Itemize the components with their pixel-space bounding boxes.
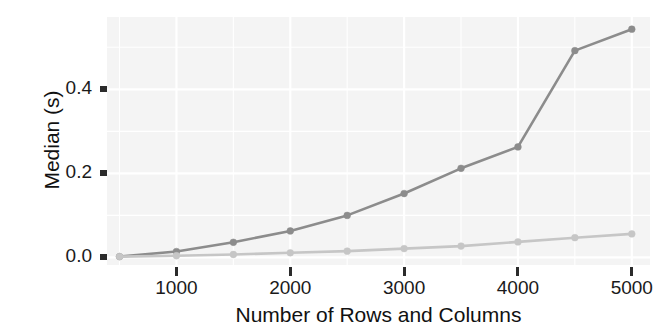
x-axis-tick-mark [175, 267, 178, 276]
plot-panel [107, 17, 650, 265]
data-point-lower-series-1000 [173, 252, 180, 259]
series-line-upper-series [120, 29, 632, 256]
data-point-lower-series-4000 [515, 238, 522, 245]
data-point-lower-series-1500 [230, 251, 237, 258]
x-axis-tick-mark [630, 267, 633, 276]
data-point-lower-series-2500 [344, 248, 351, 255]
x-axis-tick-label: 2000 [245, 278, 335, 297]
data-point-upper-series-1500 [230, 239, 237, 246]
x-axis-tick-label: 4000 [473, 278, 563, 297]
data-point-upper-series-2500 [344, 212, 351, 219]
y-axis-tick-label: 0.4 [32, 78, 92, 97]
data-point-lower-series-4500 [571, 234, 578, 241]
data-point-upper-series-4500 [571, 47, 578, 54]
x-axis-title: Number of Rows and Columns [107, 303, 650, 327]
x-axis-tick-label: 3000 [359, 278, 449, 297]
y-axis-tick-mark [100, 254, 107, 260]
x-axis-tick-label: 5000 [587, 278, 663, 297]
data-point-lower-series-5000 [628, 230, 635, 237]
y-axis-tick-mark [100, 170, 107, 176]
y-axis-tick-label: 0.2 [32, 162, 92, 181]
data-point-upper-series-3500 [458, 165, 465, 172]
data-point-upper-series-5000 [628, 26, 635, 33]
y-axis-tick-label: 0.0 [32, 246, 92, 265]
x-axis-tick-mark [403, 267, 406, 276]
data-point-lower-series-2000 [287, 249, 294, 256]
data-point-lower-series-3000 [401, 245, 408, 252]
x-axis-tick-mark [516, 267, 519, 276]
chart-container: Median (s) 0.00.20.4 1000200030004000500… [0, 0, 663, 336]
series-line-lower-series [120, 234, 632, 257]
data-point-upper-series-2000 [287, 228, 294, 235]
x-axis-tick-mark [289, 267, 292, 276]
plot-area-svg [107, 17, 650, 265]
data-point-lower-series-3500 [458, 243, 465, 250]
data-point-lower-series-500 [116, 253, 123, 260]
data-point-upper-series-4000 [515, 143, 522, 150]
y-axis-tick-mark [100, 86, 107, 92]
y-axis-title: Median (s) [40, 25, 64, 255]
data-point-upper-series-3000 [401, 190, 408, 197]
x-axis-tick-label: 1000 [131, 278, 221, 297]
